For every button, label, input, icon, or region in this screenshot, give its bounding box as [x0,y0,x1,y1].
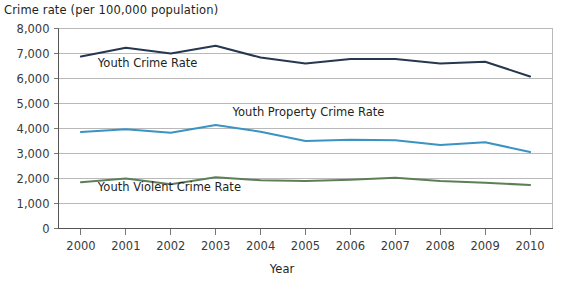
y-tick-label: 8,000 [17,22,50,36]
y-tick-label: 1,000 [17,197,50,211]
x-tick-label: 2003 [201,239,230,253]
y-tick-label: 7,000 [17,47,50,61]
x-tick-label: 2004 [246,239,275,253]
series-label-youth-crime-rate: Youth Crime Rate [97,56,198,70]
y-tick-label: 6,000 [17,72,50,86]
x-tick-label: 2006 [336,239,365,253]
x-tick-label: 2005 [291,239,320,253]
x-tick-label: 2000 [66,239,95,253]
series-label-youth-property-crime-rate: Youth Property Crime Rate [232,105,385,119]
crime-rate-line-chart: Crime rate (per 100,000 population) 8,00… [0,0,564,286]
x-tick-label: 2008 [426,239,455,253]
y-axis-tick-labels: 8,0007,0006,0005,0004,0003,0002,0001,000… [17,22,50,236]
y-tick-label: 0 [42,222,49,236]
x-tick-label: 2007 [381,239,410,253]
x-axis-title: Year [0,262,564,276]
series-label-youth-violent-crime-rate: Youth Violent Crime Rate [97,180,241,194]
y-tick-label: 2,000 [17,172,50,186]
x-tick-label: 2001 [111,239,140,253]
y-tick-label: 5,000 [17,97,50,111]
chart-plot-area: 8,0007,0006,0005,0004,0003,0002,0001,000… [0,0,564,286]
y-tick-label: 4,000 [17,122,50,136]
y-tick-label: 3,000 [17,147,50,161]
x-tick-label: 2010 [515,239,544,253]
x-axis-tick-labels: 2000200120022003200420052006200720082009… [66,239,544,253]
x-tick-label: 2002 [156,239,185,253]
x-tick-label: 2009 [470,239,499,253]
series-line-youth-property-crime-rate [81,125,530,152]
series-inline-labels: Youth Crime RateYouth Property Crime Rat… [97,56,385,194]
